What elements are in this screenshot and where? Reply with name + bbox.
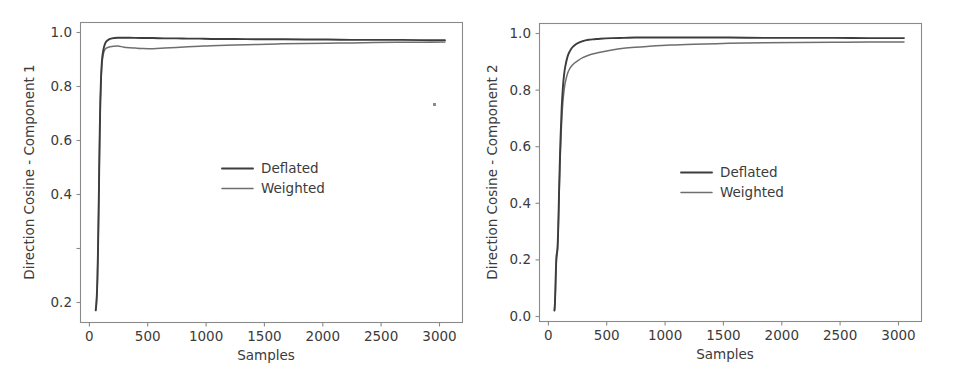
x-ticklabel: 0 — [85, 328, 94, 344]
legend-label-deflated: Deflated — [261, 160, 319, 176]
series-line-weighted-1 — [96, 42, 445, 310]
x-ticklabel: 1500 — [706, 327, 740, 343]
panel-2-canvas: 1.0 0.8 0.6 0.4 0.2 0.0 0 500 1000 — [479, 0, 958, 384]
x-axis-ticks-1 — [89, 323, 439, 327]
x-ticklabel: 500 — [135, 328, 161, 344]
y-ticklabel: 1.0 — [510, 25, 531, 41]
figure-root: 1.0 0.8 0.6 0.4 0.2 0 500 1000 1500 — [0, 0, 958, 384]
y-ticklabel: 0.0 — [510, 308, 531, 324]
legend-1: Deflated Weighted — [222, 160, 325, 196]
y-ticklabel: 0.8 — [51, 78, 72, 94]
x-ticklabel: 2500 — [823, 327, 857, 343]
x-ticklabel: 2000 — [306, 328, 340, 344]
y-axis-ticks-1 — [77, 33, 81, 303]
y-ticklabel: 0.4 — [51, 186, 72, 202]
y-axis-label-2: Direction Cosine - Component 2 — [484, 64, 500, 279]
x-ticklabel: 2500 — [364, 328, 398, 344]
x-ticklabel: 3000 — [881, 327, 915, 343]
y-axis-label-1: Direction Cosine - Component 1 — [21, 64, 37, 279]
y-ticklabel: 0.8 — [510, 82, 531, 98]
y-ticklabel: 0.6 — [51, 132, 72, 148]
y-ticklabel: 1.0 — [51, 24, 72, 40]
x-ticklabel: 1000 — [189, 328, 223, 344]
x-axis-label-2: Samples — [696, 346, 754, 362]
y-axis-ticks-2 — [536, 34, 540, 317]
y-ticklabel: 0.4 — [510, 195, 531, 211]
y-ticklabel: 0.2 — [510, 251, 531, 267]
legend-label-deflated: Deflated — [720, 164, 778, 180]
panel-component-2: 1.0 0.8 0.6 0.4 0.2 0.0 0 500 1000 — [479, 0, 958, 384]
x-ticklabel: 500 — [594, 327, 620, 343]
x-axis-label-1: Samples — [237, 347, 295, 363]
legend-label-weighted: Weighted — [261, 180, 325, 196]
legend-2: Deflated Weighted — [681, 164, 784, 200]
x-ticklabel: 1000 — [648, 327, 682, 343]
y-ticklabel: 0.6 — [510, 138, 531, 154]
panel-component-1: 1.0 0.8 0.6 0.4 0.2 0 500 1000 1500 — [0, 0, 479, 384]
x-axis-ticklabels-1: 0 500 1000 1500 2000 2500 3000 — [85, 328, 457, 344]
stray-speck-marker — [433, 103, 436, 106]
y-ticklabel: 0.2 — [51, 294, 72, 310]
x-axis-ticklabels-2: 0 500 1000 1500 2000 2500 3000 — [544, 327, 916, 343]
x-ticklabel: 0 — [544, 327, 553, 343]
x-axis-ticks-2 — [548, 322, 898, 326]
panel-1-canvas: 1.0 0.8 0.6 0.4 0.2 0 500 1000 1500 — [0, 0, 479, 384]
x-ticklabel: 2000 — [765, 327, 799, 343]
y-axis-ticklabels-2: 1.0 0.8 0.6 0.4 0.2 0.0 — [510, 25, 531, 324]
y-axis-ticklabels-1: 1.0 0.8 0.6 0.4 0.2 — [51, 24, 72, 310]
x-ticklabel: 1500 — [247, 328, 281, 344]
x-ticklabel: 3000 — [422, 328, 456, 344]
legend-label-weighted: Weighted — [720, 184, 784, 200]
